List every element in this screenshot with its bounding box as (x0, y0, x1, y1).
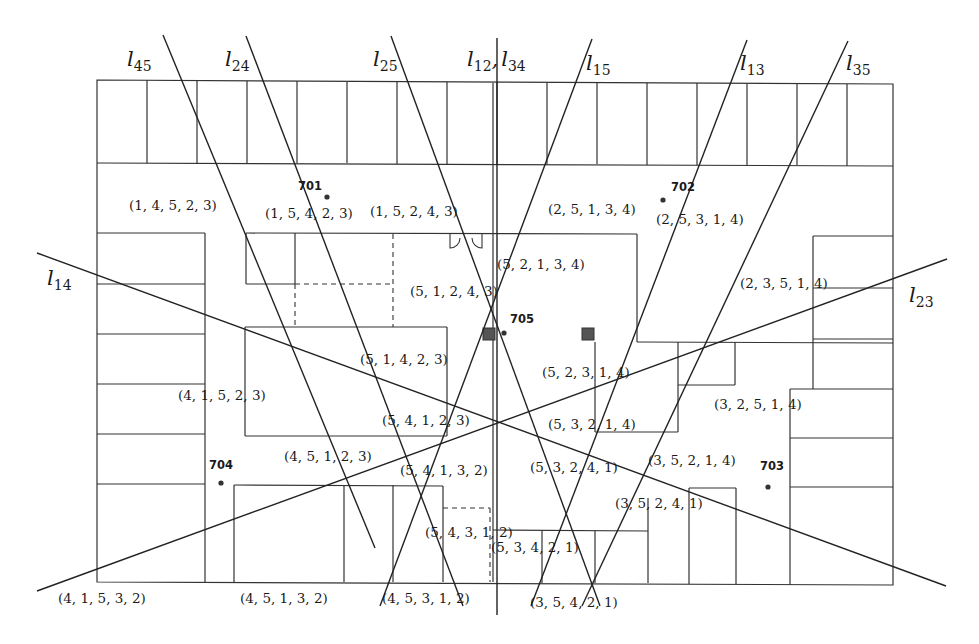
line-label-l14: l14 (47, 266, 72, 293)
region-order-label: (3, 2, 5, 1, 4) (714, 396, 802, 412)
region-order-label: (4, 5, 3, 1, 2) (382, 590, 470, 606)
line-label-l13: l13 (740, 51, 765, 78)
region-order-label: (1, 5, 2, 4, 3) (370, 203, 458, 219)
region-order-label: (4, 5, 1, 3, 2) (240, 590, 328, 606)
region-order-label: (5, 3, 2, 1, 4) (548, 416, 636, 432)
region-order-label: (1, 4, 5, 2, 3) (129, 197, 217, 213)
region-order-label: (5, 1, 4, 2, 3) (360, 351, 448, 367)
line-label-l24: l24 (225, 47, 250, 74)
region-order-label: (2, 5, 3, 1, 4) (656, 211, 744, 227)
access-point-label: 703 (760, 459, 784, 473)
line-label-l12_l34: l12,l34 (467, 47, 526, 74)
line-label-l23: l23 (909, 283, 934, 310)
line-label-l35: l35 (846, 51, 871, 78)
bisector-line-l15 (380, 39, 592, 606)
door-leaf-right (472, 234, 482, 248)
access-point-label: 705 (510, 312, 534, 326)
bisector-line-l24 (246, 36, 463, 606)
wall-segment (246, 233, 637, 234)
region-order-label: (2, 3, 5, 1, 4) (740, 275, 828, 291)
access-point-dot-icon (218, 480, 223, 485)
region-order-label: (5, 2, 3, 1, 4) (542, 364, 630, 380)
line-label-l25: l25 (373, 47, 398, 74)
access-point-label: 702 (671, 180, 695, 194)
region-order-label: (3, 5, 2, 4, 1) (615, 495, 703, 511)
bisector-line-l25 (391, 36, 600, 606)
access-point-label: 704 (209, 458, 233, 472)
square-marker-icon (483, 328, 495, 340)
region-order-label: (4, 1, 5, 2, 3) (178, 387, 266, 403)
door-leaf-left (450, 234, 460, 248)
square-marker-icon (582, 328, 594, 340)
region-order-label: (5, 4, 1, 2, 3) (382, 412, 470, 428)
region-order-label: (3, 5, 4, 2, 1) (530, 594, 618, 610)
access-point-dot-icon (765, 484, 770, 489)
region-order-label: (5, 3, 2, 4, 1) (530, 459, 618, 475)
region-order-label: (1, 5, 4, 2, 3) (265, 205, 353, 221)
region-order-label: (5, 4, 3, 1, 2) (425, 524, 513, 540)
region-order-label: (2, 5, 1, 3, 4) (548, 201, 636, 217)
region-order-label: (4, 1, 5, 3, 2) (58, 590, 146, 606)
wall-segment (493, 530, 648, 531)
region-order-label: (5, 4, 1, 3, 2) (400, 462, 488, 478)
access-point-dot-icon (660, 197, 665, 202)
line-label-l45: l45 (127, 47, 152, 74)
region-order-label: (3, 5, 2, 1, 4) (648, 452, 736, 468)
wall-segment (234, 485, 443, 486)
region-order-label: (5, 2, 1, 3, 4) (497, 256, 585, 272)
access-point-dot-icon (501, 330, 506, 335)
bisector-line-labels: l45l24l25l12,l34l15l13l35l14l23 (47, 47, 934, 310)
region-order-label: (5, 3, 4, 2, 1) (491, 539, 579, 555)
line-label-l15: l15 (586, 51, 611, 78)
access-point-dot-icon (324, 194, 329, 199)
wall-segment (637, 342, 893, 343)
region-order-label: (5, 1, 2, 4, 3) (410, 283, 498, 299)
region-order-label: (4, 5, 1, 2, 3) (284, 448, 372, 464)
access-point-label: 701 (298, 179, 322, 193)
floor-plan-diagram: l45l24l25l12,l34l15l13l35l14l23 70170270… (0, 0, 979, 644)
